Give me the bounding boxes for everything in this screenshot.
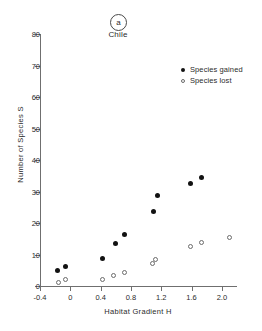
x-tick-label: 0.4 (88, 293, 114, 302)
x-tick-mark (192, 286, 193, 291)
x-tick-mark (70, 286, 71, 291)
y-tick-label: 60 (22, 93, 40, 102)
x-tick-mark (131, 286, 132, 291)
y-tick-label: 40 (22, 156, 40, 165)
y-tick-label: 80 (22, 30, 40, 39)
data-point-gained (55, 268, 60, 273)
legend-marker-icon (181, 68, 190, 72)
legend-item: Species gained (181, 64, 243, 75)
y-tick-label: 30 (22, 188, 40, 197)
legend-item-label: Species lost (190, 76, 232, 85)
data-point-lost (199, 240, 204, 245)
x-tick-mark (101, 286, 102, 291)
data-point-gained (199, 175, 204, 180)
x-tick-mark (161, 286, 162, 291)
panel-label: a (110, 14, 127, 31)
x-tick-label: 1.6 (179, 293, 205, 302)
x-tick-mark (222, 286, 223, 291)
x-tick-label: 0 (57, 293, 83, 302)
x-tick-label: 2.0 (209, 293, 235, 302)
x-tick-mark (40, 286, 41, 291)
y-tick-label: 70 (22, 62, 40, 71)
y-tick-label: 0 (22, 282, 40, 291)
y-tick-label: 50 (22, 125, 40, 134)
x-tick-label: 0.8 (118, 293, 144, 302)
scatter-plot-figure: a Chile 01020304050607080 -0.400.40.81.2… (0, 0, 262, 331)
legend-item: Species lost (181, 75, 243, 86)
data-point-gained (155, 193, 160, 198)
data-point-gained (63, 264, 68, 269)
data-point-lost (122, 270, 127, 275)
y-tick-label: 20 (22, 219, 40, 228)
data-point-gained (122, 232, 127, 237)
y-tick-label: 10 (22, 251, 40, 260)
y-axis-title: Number of Species S (16, 75, 25, 215)
x-tick-label: 1.2 (148, 293, 174, 302)
data-point-lost (100, 277, 105, 282)
data-point-lost (153, 257, 158, 262)
legend-marker-icon (181, 79, 190, 83)
x-axis-title: Habitat Gradient H (48, 307, 228, 316)
legend-item-label: Species gained (190, 65, 243, 74)
x-tick-label: -0.4 (27, 293, 53, 302)
legend: Species gainedSpecies lost (181, 64, 243, 86)
